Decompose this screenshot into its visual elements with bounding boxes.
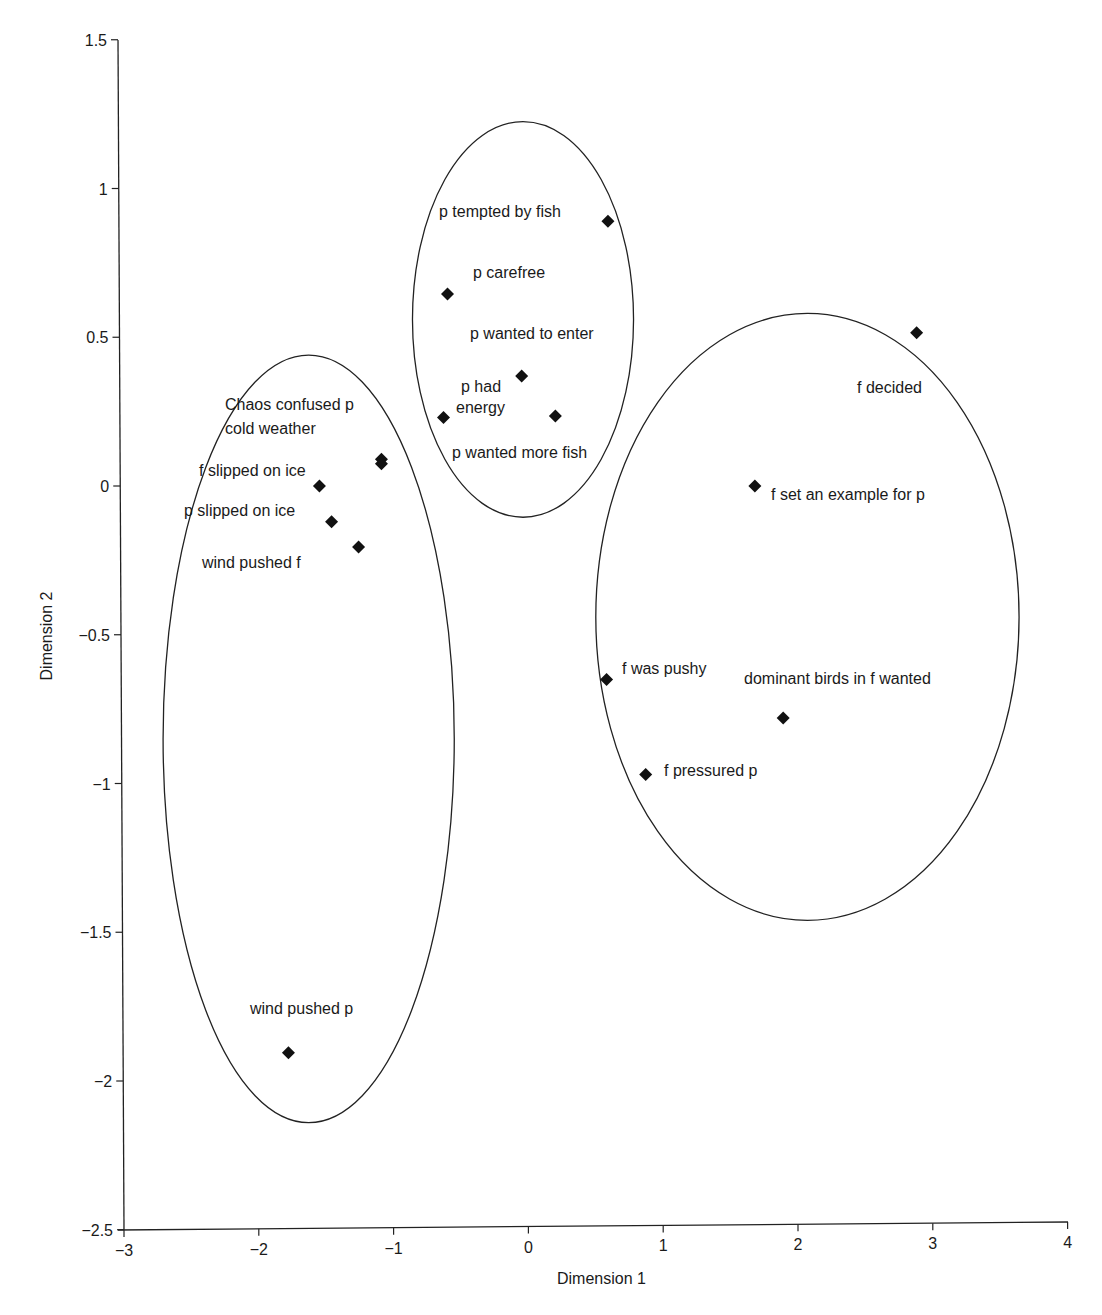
x-tick-label: 1	[659, 1237, 668, 1254]
cluster-ellipse-3	[596, 313, 1019, 920]
y-tick-label: −2.5	[81, 1222, 113, 1239]
y-tick-label: 1.5	[85, 32, 107, 49]
data-point-diamond-icon	[600, 673, 613, 686]
point-label: f slipped on ice	[199, 462, 306, 479]
point-label: f pressured p	[664, 762, 757, 779]
y-tick-label: −0.5	[78, 627, 110, 644]
data-point-diamond-icon	[639, 768, 652, 781]
point-label: dominant birds in f wanted	[744, 670, 931, 687]
point-label: f decided	[857, 379, 922, 396]
data-point-diamond-icon	[777, 712, 790, 725]
point-label: wind pushed f	[201, 554, 301, 571]
y-tick-label: 1	[99, 181, 108, 198]
data-point-diamond-icon	[282, 1046, 295, 1059]
y-tick-label: −2	[94, 1073, 112, 1090]
y-tick-label: 0	[100, 478, 109, 495]
x-tick-label: −3	[115, 1242, 133, 1259]
cluster-ellipses	[163, 122, 1019, 1123]
data-point-diamond-icon	[601, 215, 614, 228]
point-label: cold weather	[225, 420, 316, 437]
data-point-diamond-icon	[441, 288, 454, 301]
x-tick-label: 3	[928, 1235, 937, 1252]
point-label: wind pushed p	[249, 1000, 353, 1017]
axes	[118, 40, 1068, 1230]
point-label: p tempted by fish	[439, 203, 561, 220]
data-point-diamond-icon	[437, 411, 450, 424]
point-labels: p tempted by fishp carefreep wanted to e…	[184, 203, 931, 1017]
x-axis-ticks: −3−2−101234	[115, 1222, 1072, 1259]
point-label: Chaos confused p	[225, 396, 354, 413]
data-point-diamond-icon	[313, 480, 326, 493]
data-point-diamond-icon	[910, 326, 923, 339]
data-point-diamond-icon	[748, 480, 761, 493]
point-label: p carefree	[473, 264, 545, 281]
data-point-diamond-icon	[325, 515, 338, 528]
x-axis-line	[118, 1222, 1068, 1230]
point-label: energy	[456, 399, 505, 416]
x-tick-label: −1	[384, 1240, 402, 1257]
y-axis-ticks: 1.510.50−0.5−1−1.5−2−2.5	[78, 32, 124, 1239]
point-label: f set an example for p	[771, 486, 925, 503]
y-tick-label: 0.5	[86, 329, 108, 346]
point-label: p wanted to enter	[470, 325, 594, 342]
data-point-diamond-icon	[549, 410, 562, 423]
mds-scatter-chart: 1.510.50−0.5−1−1.5−2−2.5 −3−2−101234 p t…	[0, 0, 1102, 1315]
y-tick-label: −1.5	[80, 924, 112, 941]
x-tick-label: 2	[794, 1236, 803, 1253]
point-label: p slipped on ice	[184, 502, 295, 519]
data-point-diamond-icon	[515, 369, 528, 382]
y-tick-label: −1	[92, 776, 110, 793]
point-label: p wanted more fish	[452, 444, 587, 461]
x-axis-title: Dimension 1	[557, 1270, 646, 1287]
x-tick-label: 4	[1063, 1234, 1072, 1251]
x-tick-label: 0	[524, 1239, 533, 1256]
point-label: f was pushy	[622, 660, 706, 677]
y-axis-title: Dimension 2	[38, 591, 55, 680]
x-tick-label: −2	[250, 1241, 268, 1258]
data-point-diamond-icon	[352, 540, 365, 553]
data-markers	[282, 215, 923, 1060]
point-label: p had	[461, 378, 501, 395]
